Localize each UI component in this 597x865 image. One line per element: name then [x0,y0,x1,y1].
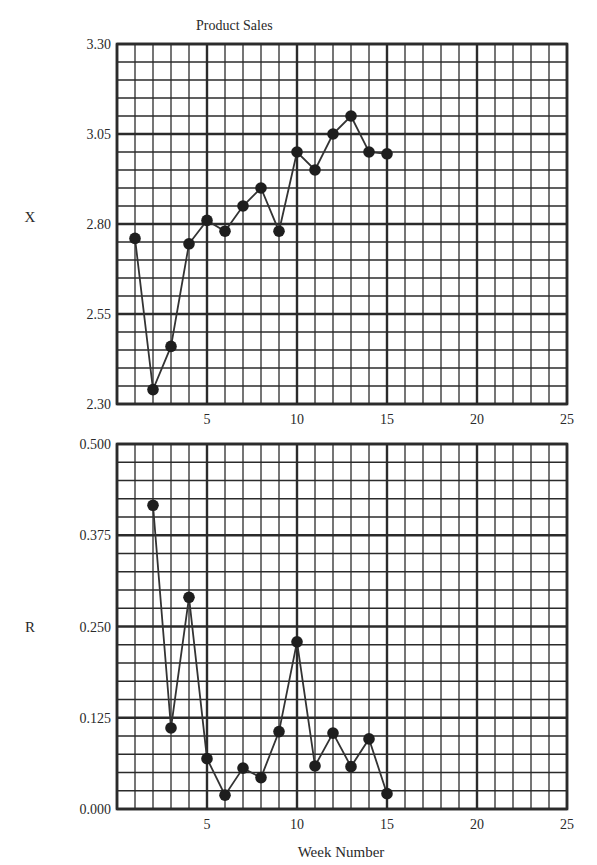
data-point-marker [147,500,159,512]
x-tick-label: 25 [560,817,574,832]
data-point-marker [165,722,177,734]
data-point-marker [183,238,195,250]
data-point-marker [273,225,285,237]
data-point-marker [255,772,267,784]
data-point-marker [165,341,177,353]
data-point-marker [237,762,249,774]
data-point-marker [201,753,213,765]
x-tick-label: 25 [560,412,574,427]
data-point-marker [237,200,249,212]
chart-title: Product Sales [196,18,273,33]
data-point-marker [255,182,267,194]
x-tick-label: 10 [290,817,304,832]
data-point-marker [291,146,303,158]
x-tick-label: 15 [380,412,394,427]
x-tick-label: 10 [290,412,304,427]
x-tick-label: 15 [380,817,394,832]
y-tick-label: 3.30 [87,37,112,52]
data-point-marker [129,233,141,245]
control-chart-figure: Product Sales 2.302.552.803.053.30510152… [0,0,597,865]
y-tick-label: 3.05 [87,127,112,142]
y-tick-label: 2.55 [87,307,112,322]
x-axis-label: Week Number [298,844,385,860]
y-tick-label: 2.30 [87,397,112,412]
y-tick-label: 0.500 [80,437,112,452]
data-point-marker [363,733,375,745]
data-point-marker [327,128,339,140]
x-tick-label: 20 [470,817,484,832]
series-line [153,505,387,795]
y-tick-label: 2.80 [87,217,112,232]
data-point-marker [363,146,375,158]
data-point-marker [381,148,393,160]
data-point-marker [273,726,285,738]
data-point-marker [327,727,339,739]
data-point-marker [219,225,231,237]
x-tick-label: 5 [204,412,211,427]
data-point-marker [345,761,357,773]
data-point-marker [201,215,213,227]
data-point-marker [309,760,321,772]
x-tick-label: 5 [204,817,211,832]
y-tick-label: 0.000 [80,802,112,817]
y-axis-label: X [25,209,36,225]
x-bar-chart: 2.302.552.803.053.30510152025X [25,37,574,427]
data-point-marker [219,789,231,801]
y-tick-label: 0.375 [80,528,112,543]
data-point-marker [147,384,159,396]
x-tick-label: 20 [470,412,484,427]
data-point-marker [309,164,321,176]
y-axis-label: R [25,619,35,635]
grid [117,44,567,404]
data-point-marker [291,636,303,648]
y-tick-label: 0.125 [80,711,112,726]
data-point-marker [345,110,357,122]
range-chart: 0.0000.1250.2500.3750.500510152025R [25,437,574,832]
data-point-marker [381,788,393,800]
data-point-marker [183,592,195,604]
y-tick-label: 0.250 [80,620,112,635]
